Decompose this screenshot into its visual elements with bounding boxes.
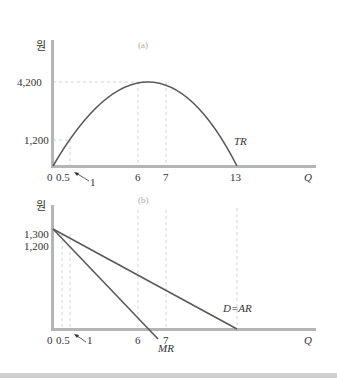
arrow-icon-b <box>74 334 86 342</box>
y-tick-1200: 1,200 <box>24 134 49 146</box>
x-tick-05-b: 0.5 <box>56 334 70 346</box>
demand-ar-line <box>53 229 237 329</box>
x-tick-6-a: 6 <box>135 171 141 183</box>
mr-label: MR <box>157 342 174 354</box>
panel-label-a: (a) <box>138 40 148 50</box>
y-tick-1300: 1,300 <box>24 228 49 240</box>
y-unit-label-b: 원 <box>36 200 46 212</box>
x-tick-0-a: 0 <box>47 171 53 183</box>
x-tick-0-b: 0 <box>47 334 53 346</box>
y-tick-4200: 4,200 <box>17 76 42 88</box>
x-tick-13-a: 13 <box>230 171 242 183</box>
tr-curve <box>53 82 237 166</box>
x-axis-label-b: Q <box>304 334 312 346</box>
x-axis-label-a: Q <box>304 171 312 183</box>
demand-ar-label: D=AR <box>222 302 252 314</box>
mr-line <box>53 229 158 339</box>
x-tick-6-b: 6 <box>135 334 141 346</box>
bottom-divider <box>0 373 337 378</box>
arrow-icon-a <box>74 172 89 181</box>
panel-label-b: (b) <box>138 195 149 205</box>
panel-b: 원 (b) 1,300 1,200 0 0.5 6 7 Q D=AR MR 1 <box>24 195 316 354</box>
economics-chart: 원 (a) 4,200 1,200 0 0.5 6 7 13 Q TR 1 원 … <box>0 0 337 378</box>
y-tick-1200-b: 1,200 <box>24 240 49 252</box>
x-tick-7-a: 7 <box>163 171 169 183</box>
panel-a: 원 (a) 4,200 1,200 0 0.5 6 7 13 Q TR 1 <box>17 40 316 188</box>
tr-label: TR <box>234 135 247 147</box>
y-unit-label-a: 원 <box>36 40 46 52</box>
arrow-label-1-a: 1 <box>90 176 96 188</box>
arrow-label-1-b: 1 <box>87 334 93 346</box>
x-tick-05-a: 0.5 <box>56 171 70 183</box>
